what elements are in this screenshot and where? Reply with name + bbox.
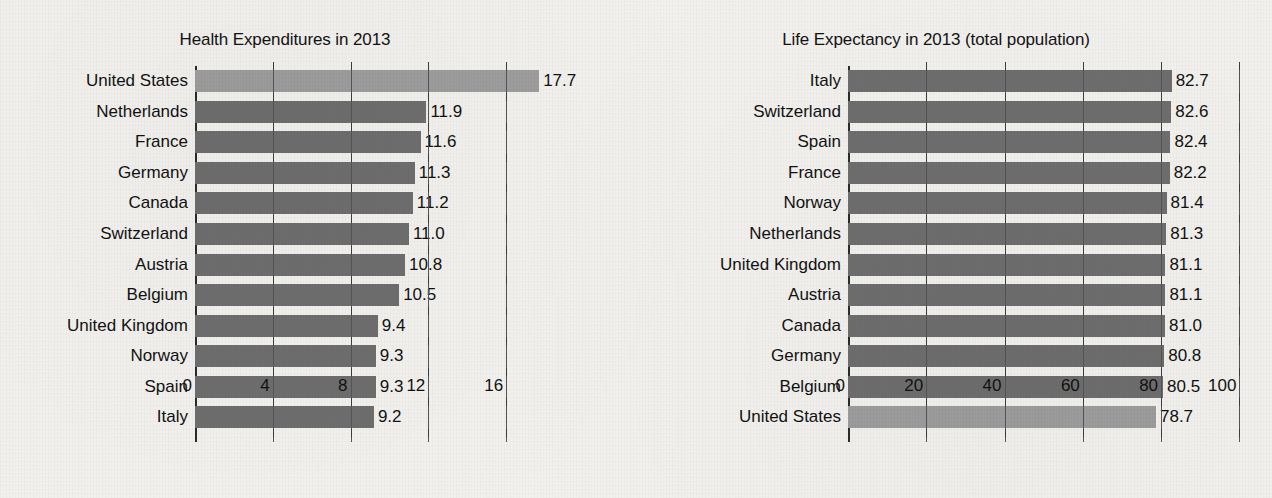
tick-stub bbox=[1161, 337, 1162, 345]
tick-stub bbox=[351, 154, 352, 162]
tick-stub bbox=[506, 368, 507, 376]
tick-stub bbox=[1005, 215, 1006, 223]
tick-stub bbox=[273, 154, 274, 162]
bar-row: Norway81.4 bbox=[848, 188, 1255, 219]
bar-row: United Kingdom81.1 bbox=[848, 250, 1255, 281]
tick-stub bbox=[1083, 429, 1084, 437]
tick-stub bbox=[506, 337, 507, 345]
tick-stub bbox=[1161, 276, 1162, 284]
tick-stub bbox=[1161, 215, 1162, 223]
tick-stub bbox=[1161, 123, 1162, 131]
bar-row: Belgium10.5 bbox=[195, 280, 545, 311]
value-label: 10.8 bbox=[409, 254, 442, 276]
value-label: 81.4 bbox=[1171, 192, 1204, 214]
tick-stub bbox=[1239, 154, 1240, 162]
tick-stub bbox=[1005, 93, 1006, 101]
tick-stub bbox=[1083, 246, 1084, 254]
value-label: 11.3 bbox=[419, 162, 451, 184]
tick-stub bbox=[273, 337, 274, 345]
tick-stub bbox=[428, 184, 429, 192]
tick-stub bbox=[1005, 276, 1006, 284]
tick-stub bbox=[926, 62, 927, 70]
bar-row: Italy82.7 bbox=[848, 66, 1255, 97]
tick-stub bbox=[1239, 429, 1240, 437]
x-tick-label: 40 bbox=[983, 376, 1005, 396]
tick-stub bbox=[428, 62, 429, 70]
bar-row: Austria10.8 bbox=[195, 250, 545, 281]
tick-stub bbox=[1005, 368, 1006, 376]
tick-stub bbox=[273, 368, 274, 376]
tick-stub bbox=[1239, 337, 1240, 345]
x-tick-label: 8 bbox=[338, 376, 350, 396]
x-tick-label: 20 bbox=[904, 376, 926, 396]
tick-stub bbox=[1161, 246, 1162, 254]
tick-stub bbox=[1161, 93, 1162, 101]
x-tick-label: 80 bbox=[1139, 376, 1161, 396]
tick-stub bbox=[351, 184, 352, 192]
bar bbox=[195, 162, 415, 184]
tick-stub bbox=[351, 368, 352, 376]
bar bbox=[195, 406, 374, 428]
tick-stub bbox=[1239, 276, 1240, 284]
value-label: 11.2 bbox=[417, 192, 449, 214]
tick-stub bbox=[1239, 62, 1240, 70]
category-label: Switzerland bbox=[100, 223, 188, 245]
tick-stub bbox=[351, 93, 352, 101]
bar-row: Austria81.1 bbox=[848, 280, 1255, 311]
value-label: 17.7 bbox=[543, 70, 576, 92]
tick-stub bbox=[1239, 368, 1240, 376]
tick-stub bbox=[1239, 215, 1240, 223]
category-label: Italy bbox=[810, 70, 841, 92]
bar bbox=[848, 406, 1156, 428]
tick-stub bbox=[273, 215, 274, 223]
value-label: 82.2 bbox=[1174, 162, 1207, 184]
x-tick-label: 12 bbox=[406, 376, 428, 396]
tick-stub bbox=[1239, 307, 1240, 315]
x-tick-label: 0 bbox=[836, 376, 848, 396]
bar bbox=[195, 101, 426, 123]
bar-row: Germany80.8 bbox=[848, 341, 1255, 372]
category-label: United States bbox=[86, 70, 188, 92]
tick-stub bbox=[506, 123, 507, 131]
bar-row: Switzerland82.6 bbox=[848, 97, 1255, 128]
bar bbox=[195, 131, 421, 153]
tick-stub bbox=[926, 246, 927, 254]
tick-stub bbox=[926, 307, 927, 315]
tick-stub bbox=[1083, 368, 1084, 376]
tick-stub bbox=[428, 368, 429, 376]
tick-stub bbox=[273, 246, 274, 254]
tick-stub bbox=[1005, 307, 1006, 315]
bar bbox=[195, 345, 376, 367]
tick-stub bbox=[1005, 246, 1006, 254]
tick-stub bbox=[1005, 429, 1006, 437]
x-tick-label: 100 bbox=[1208, 376, 1239, 396]
category-label: France bbox=[788, 162, 841, 184]
tick-stub bbox=[1161, 62, 1162, 70]
tick-stub bbox=[506, 154, 507, 162]
tick-stub bbox=[428, 123, 429, 131]
x-tick-label: 60 bbox=[1061, 376, 1083, 396]
tick-stub bbox=[926, 154, 927, 162]
tick-stub bbox=[1083, 93, 1084, 101]
value-label: 82.6 bbox=[1175, 101, 1208, 123]
category-label: Canada bbox=[128, 192, 188, 214]
tick-stub bbox=[506, 62, 507, 70]
category-label: Netherlands bbox=[749, 223, 841, 245]
bar-row: Netherlands81.3 bbox=[848, 219, 1255, 250]
bar-row: United Kingdom9.4 bbox=[195, 311, 545, 342]
x-tick-label: 4 bbox=[260, 376, 272, 396]
tick-stub bbox=[351, 246, 352, 254]
tick-stub bbox=[1005, 337, 1006, 345]
tick-stub bbox=[926, 276, 927, 284]
category-label: Austria bbox=[788, 284, 841, 306]
bar bbox=[848, 345, 1164, 367]
tick-stub bbox=[428, 154, 429, 162]
tick-stub bbox=[1161, 184, 1162, 192]
bar bbox=[848, 162, 1170, 184]
value-label: 80.8 bbox=[1168, 345, 1201, 367]
x-tick-label: 0 bbox=[183, 376, 195, 396]
tick-stub bbox=[1083, 62, 1084, 70]
tick-stub bbox=[273, 307, 274, 315]
tick-stub bbox=[926, 93, 927, 101]
value-label: 9.4 bbox=[382, 315, 406, 337]
